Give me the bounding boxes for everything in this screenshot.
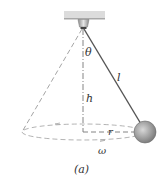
omega-label: ω	[98, 145, 106, 156]
figure-caption: (a)	[74, 163, 89, 176]
pendulum-string	[84, 29, 141, 124]
conical-pendulum-diagram: θ l h r ω (a)	[0, 0, 164, 182]
rotation-arrow-icon	[100, 140, 105, 142]
radius-label: r	[108, 126, 114, 137]
pivot-point	[81, 27, 87, 29]
pendulum-ball	[134, 121, 156, 143]
theta-label: θ	[85, 46, 92, 59]
cone-edge-dashed-line	[22, 29, 82, 132]
height-label: h	[86, 92, 93, 105]
ceiling-support	[64, 11, 105, 19]
rotation-arrow-icon	[55, 123, 60, 125]
length-label: l	[117, 71, 121, 84]
pivot-mount	[78, 20, 89, 28]
